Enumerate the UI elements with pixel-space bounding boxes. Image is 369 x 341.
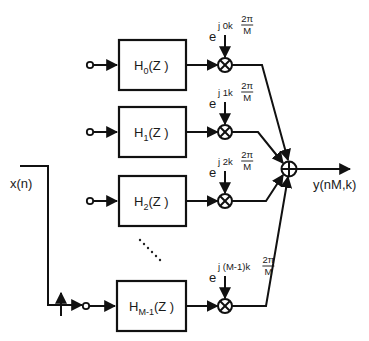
svg-text:j 1k: j 1k — [217, 87, 233, 98]
input-label: x(n) — [10, 176, 32, 191]
svg-text:e: e — [209, 96, 216, 111]
svg-text:e: e — [209, 270, 216, 285]
filter-branch-1: H1(Z )ej 1k2πM — [87, 80, 283, 163]
svg-text:j (M-1)k: j (M-1)k — [217, 261, 250, 272]
output-label: y(nM,k) — [313, 177, 356, 192]
branch-to-summer — [232, 132, 283, 163]
svg-text:2π: 2π — [241, 80, 253, 91]
input-path: x(n) — [10, 166, 82, 305]
svg-text:M: M — [243, 161, 251, 172]
open-circle-icon — [87, 129, 93, 135]
modulator-label: ej 1k2πM — [209, 80, 254, 111]
filter-branch-2: H2(Z )ej 2k2πM — [87, 149, 283, 226]
output-path: y(nM,k) — [297, 169, 357, 192]
svg-text:M: M — [243, 25, 251, 36]
svg-text:2π: 2π — [241, 13, 253, 24]
open-circle-icon — [87, 198, 93, 204]
modulator-label: ej 0k2πM — [209, 13, 254, 44]
svg-text:j 2k: j 2k — [217, 156, 233, 167]
svg-text:2π: 2π — [241, 149, 253, 160]
svg-text:e: e — [209, 29, 216, 44]
filter-box — [117, 281, 186, 331]
svg-text:M: M — [243, 92, 251, 103]
open-circle-icon — [83, 303, 89, 309]
filter-branch-0: H0(Z )ej 0k2πM — [87, 13, 288, 160]
ellipsis-dots — [139, 239, 161, 261]
circled-times-icon — [218, 125, 232, 139]
modulator-label: ej (M-1)k2πM — [209, 254, 275, 285]
branch-to-summer — [232, 177, 288, 306]
circled-times-icon — [218, 194, 232, 208]
circled-plus-icon — [282, 162, 297, 177]
svg-text:j 0k: j 0k — [217, 20, 233, 31]
dft-filter-bank-diagram: x(n) H0(Z )ej 0k2πMH1(Z )ej 1k2πMH2(Z )e… — [0, 0, 369, 341]
circled-times-icon — [218, 58, 232, 72]
circled-times-icon — [218, 299, 232, 313]
branch-to-summer — [232, 175, 283, 201]
open-circle-icon — [87, 62, 93, 68]
modulator-label: ej 2k2πM — [209, 149, 254, 180]
svg-text:e: e — [209, 165, 216, 180]
